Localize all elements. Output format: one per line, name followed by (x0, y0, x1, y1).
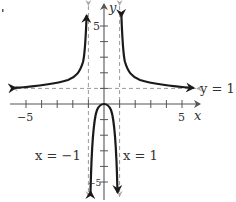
left-branch (15, 16, 87, 88)
right-branch (121, 16, 193, 88)
y-tick-label-neg5: −5 (88, 178, 102, 188)
asymptote-label-x-neg1: x = −1 (35, 148, 81, 163)
axes (10, 4, 200, 200)
y-tick-label-5: 5 (93, 20, 100, 33)
scan-artifact (2, 9, 4, 12)
asymptote-label-y1: y = 1 (199, 81, 235, 96)
x-tick-label-5: 5 (178, 111, 185, 124)
asymptote-label-x-pos1: x = 1 (123, 148, 158, 163)
rational-function-graph: y x −5 5 5 −5 y = 1 x = −1 x = 1 (0, 0, 236, 202)
y-axis-label: y (108, 0, 117, 15)
x-axis-label: x (194, 108, 202, 123)
x-tick-label-neg5: −5 (17, 111, 33, 124)
